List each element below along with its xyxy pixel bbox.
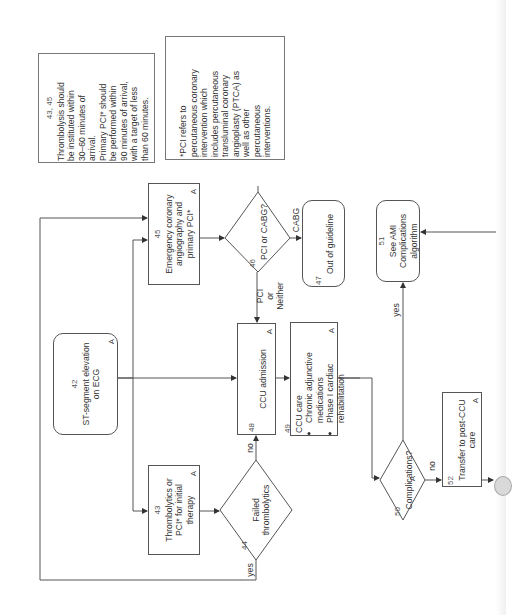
note-line: well as other [241, 39, 252, 157]
node-text: angiography and [174, 185, 185, 283]
node-number: 42 [70, 336, 81, 432]
edge-label-line: Neither [275, 282, 285, 310]
off-page-connector-icon [494, 476, 512, 496]
node-text: PCI or CABG? [258, 196, 269, 268]
node-text: thrombolytics [261, 470, 272, 550]
node-45-emergency-angiography[interactable]: 45 Emergency coronary angiography and pr… [148, 183, 200, 285]
node-number: 50 [392, 444, 403, 516]
node-text: care [467, 395, 478, 485]
node-text: on ECG [91, 336, 102, 432]
node-42-st-elevation[interactable]: 42 ST-segment elevation on ECG A [53, 333, 118, 435]
bullet-list: Chronic adjunctivemedications Phase I ca… [304, 325, 346, 433]
node-tag: A [107, 339, 116, 344]
node-number: 44 [240, 470, 251, 550]
edge-label-pci-or-neither: PCI or Neither [255, 282, 285, 310]
node-number: 45 [153, 185, 164, 283]
node-50-complications[interactable]: 50 Complications? A [380, 440, 425, 520]
note-line: be performed within [107, 55, 118, 161]
node-text: ST-segment elevation [80, 336, 91, 432]
note-line: with a target of less [128, 55, 139, 161]
node-number: 52 [446, 395, 457, 485]
node-47-out-of-guideline[interactable]: 47 Out of guideline [302, 200, 345, 287]
edge-label-line: or [265, 282, 275, 310]
node-tag: A [471, 398, 480, 403]
node-number: 43 [153, 467, 164, 553]
bullet-item: Chronic adjunctivemedications [304, 325, 325, 423]
node-52-transfer-post-ccu[interactable]: 52 Transfer to post-CCU care A [442, 392, 482, 487]
node-tag: A [408, 476, 417, 481]
note-line: 90 minutes of arrival, [118, 55, 129, 161]
node-text: Complications [398, 202, 409, 280]
node-text: Transfer to post-CCU [457, 395, 468, 485]
node-text: Failed [251, 470, 262, 550]
node-text: See AMI [388, 202, 399, 280]
note-line: than 60 minutes. [139, 55, 150, 161]
node-number: 51 [377, 202, 388, 280]
node-text: Out of guideline [324, 203, 335, 285]
node-44-failed-thrombolytics[interactable]: 44 Failed thrombolytics [220, 460, 292, 560]
edge-label-44-no: no [245, 443, 255, 453]
note-line: interventions. [262, 39, 273, 157]
bullet-text: Chronic adjunctive [304, 352, 314, 423]
node-49-ccu-care[interactable]: 49 CCU care Chronic adjunctivemedication… [290, 322, 338, 436]
node-number: 46 [247, 196, 258, 268]
node-tag: A [265, 329, 274, 334]
node-tag: A [189, 471, 198, 476]
node-text: algorithm [409, 202, 420, 280]
edge-label-44-yes: yes [245, 563, 255, 576]
note-line: *PCI refers to [178, 39, 189, 157]
node-text: therapy [185, 467, 196, 553]
edge-label-50-yes: yes [391, 303, 401, 316]
node-tag: A [189, 189, 198, 194]
edge-label-line: PCI [255, 282, 265, 310]
note-line: arrival. [86, 55, 97, 161]
node-text: Emergency coronary [164, 185, 175, 283]
note-line: includes percutaneous [209, 39, 220, 157]
node-51-ami-complications[interactable]: 51 See AMI Complications algorithm [376, 200, 420, 282]
node-text: primary PCI* [185, 185, 196, 283]
node-text: PCI* for initial [174, 467, 185, 553]
node-number: 47 [313, 203, 324, 285]
note-line: Primary PCI* should [97, 55, 108, 161]
note-line: 30–60 minutes of [76, 55, 87, 161]
node-number: 49 [283, 325, 294, 433]
note-line: percutaneous [251, 39, 262, 157]
node-46-pci-or-cabg[interactable]: 46 PCI or CABG? [225, 192, 290, 272]
bullet-item: Phase I cardiacrehabilitation [325, 325, 346, 423]
note-line: be instituted within [65, 55, 76, 161]
note-line: transluminal coronary [220, 39, 231, 157]
bullet-text: Phase I cardiac [325, 364, 335, 423]
note-line: Thrombolysis should [55, 55, 66, 161]
node-title: CCU care [293, 325, 304, 433]
node-text: Thrombolytics or [164, 467, 175, 553]
node-number: 48 [246, 326, 257, 432]
edge-label-cabg: CABG [291, 208, 301, 232]
bullet-text: rehabilitation [335, 374, 345, 423]
node-48-ccu-admission[interactable]: 48 CCU admission A [237, 323, 276, 435]
timing-note: 43, 45 Thrombolysis should be instituted… [38, 53, 155, 163]
pci-definition-note: *PCI refers to percutaneous coronary int… [165, 36, 285, 160]
note-line: percutaneous coronary [188, 39, 199, 157]
bullet-text: medications [314, 377, 324, 423]
edge-label-50-no: no [427, 461, 437, 471]
note-line: intervention which [199, 39, 210, 157]
node-43-initial-therapy[interactable]: 43 Thrombolytics or PCI* for initial the… [148, 465, 200, 555]
note-line: angioplasty (PTCA) as [230, 39, 241, 157]
timing-note-ref: 43, 45 [44, 55, 55, 161]
node-tag: A [327, 328, 336, 333]
page-edge-shadow [496, 0, 506, 615]
node-text: CCU admission [257, 326, 268, 432]
